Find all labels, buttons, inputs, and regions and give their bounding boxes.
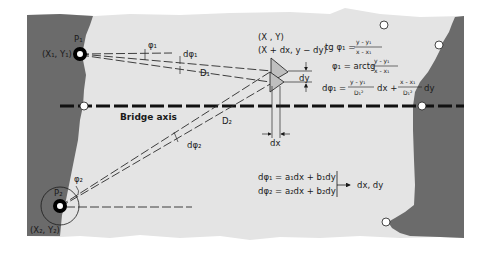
svg-text:dφ₁ =: dφ₁ = — [322, 83, 346, 93]
svg-text:y - y₁: y - y₁ — [350, 78, 366, 86]
p2-coords: (X₂, Y₂) — [30, 225, 60, 235]
target-displaced-coords: (X + dx, y − dy) — [258, 45, 327, 55]
phi2-label: φ₂ — [74, 174, 83, 184]
axis-marker-left — [80, 102, 88, 110]
d2-label: D₂ — [222, 116, 232, 126]
p1-label: P₁ — [74, 34, 83, 44]
bridge-triangulation-diagram: Bridge axis φ₁ dφ₁ D₁ D₂ dφ₂ φ₂ P₁ (X₁, … — [0, 0, 490, 254]
phi1-label: φ₁ — [148, 40, 157, 50]
svg-text:tg φ₁ =: tg φ₁ = — [325, 42, 355, 52]
svg-text:φ₁ = arctg: φ₁ = arctg — [332, 61, 375, 71]
dx-label: dx — [270, 138, 280, 148]
svg-text:x - x₁: x - x₁ — [356, 48, 372, 55]
svg-text:D₁²: D₁² — [354, 89, 364, 96]
svg-text:dx +: dx + — [377, 83, 397, 93]
survey-point-right-lower — [382, 218, 390, 226]
dphi2-label: dφ₂ — [187, 140, 201, 150]
survey-point-top — [380, 21, 388, 29]
svg-text:dy: dy — [424, 83, 434, 93]
paper-sheet — [27, 8, 464, 240]
system-result: dx, dy — [357, 180, 383, 190]
equation-dphi2: dφ₂ = a₂dx + b₂dy — [258, 186, 336, 196]
axis-marker-right — [418, 102, 426, 110]
svg-text:y - y₁: y - y₁ — [356, 38, 372, 46]
svg-text:x - x₁: x - x₁ — [374, 67, 390, 74]
dphi1-label: dφ₁ — [183, 49, 197, 59]
p1-coords: (X₁, Y₁) — [42, 49, 72, 59]
svg-text:y - y₁: y - y₁ — [374, 57, 390, 65]
station-p2-marker — [55, 201, 65, 211]
target-coords: (X , Y) — [258, 32, 284, 42]
svg-text:x - x₁: x - x₁ — [400, 78, 416, 85]
bridge-axis-label: Bridge axis — [120, 112, 177, 122]
svg-text:D₁²: D₁² — [403, 89, 413, 96]
dy-label: dy — [299, 73, 309, 83]
p2-label: P₂ — [54, 188, 63, 198]
d1-label: D₁ — [200, 68, 210, 78]
survey-point-right-upper — [435, 41, 443, 49]
equation-dphi1: dφ₁ = a₁dx + b₁dy — [258, 172, 336, 182]
station-p1-marker — [75, 49, 85, 59]
